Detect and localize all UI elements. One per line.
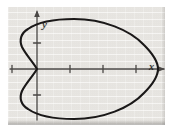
plot-panel: y x xyxy=(8,7,165,125)
y-axis-arrowhead xyxy=(34,10,40,17)
figure-container: y x xyxy=(0,0,173,132)
axes-group xyxy=(10,12,164,120)
polar-curve-svg xyxy=(8,7,165,125)
